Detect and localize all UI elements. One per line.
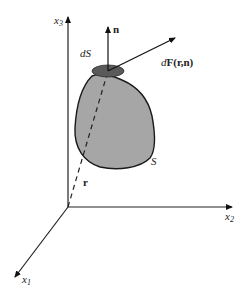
x2-axis-label: x2 <box>224 210 234 224</box>
x3-axis-label: x3 <box>53 14 63 28</box>
normal-vector-label: n <box>113 23 119 35</box>
x1-axis <box>15 207 68 277</box>
force-vector-label: dF(r,n) <box>161 56 194 69</box>
x1-axis-label: x1 <box>21 273 31 287</box>
surface-element-label: dS <box>80 47 92 59</box>
position-vector-label: r <box>83 176 88 188</box>
surface-body <box>75 74 154 168</box>
surface-label: S <box>151 155 157 167</box>
diagram-canvas: x3 x2 x1 n dS dF(r,n) r S <box>0 0 247 299</box>
